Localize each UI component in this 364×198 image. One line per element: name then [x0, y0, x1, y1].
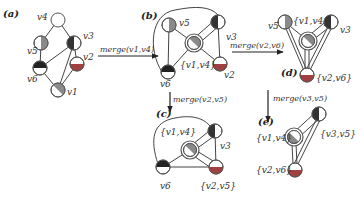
- label-c-v3: v3: [220, 142, 231, 151]
- node-c-v2v5: [209, 160, 223, 174]
- label-e-v3v5: {v3,v5}: [320, 130, 356, 139]
- panel-label-d: (d): [281, 68, 297, 78]
- node-a-v4: [51, 13, 65, 27]
- node-c-v3: [208, 124, 222, 138]
- graph-a: [40, 20, 77, 90]
- label-a-v3: v3: [83, 32, 94, 41]
- node-a-v2: [70, 57, 84, 71]
- op-label-merge-v2-v5: merge(v2,v5): [173, 96, 227, 104]
- label-a-v4: v4: [37, 13, 48, 22]
- node-e-v3v5: [312, 107, 326, 121]
- label-e-v1v4: {v1,v4}: [256, 134, 292, 143]
- label-a-v1: v1: [67, 88, 78, 97]
- node-b-v1v4: [185, 34, 203, 52]
- label-b-v3: v3: [226, 33, 237, 42]
- node-c-v6: [156, 160, 170, 174]
- label-a-v6: v6: [27, 75, 38, 84]
- node-b-v6: [161, 65, 175, 79]
- op-label-merge-v2-v6: merge(v2,v6): [230, 42, 284, 50]
- panel-label-a: (a): [3, 9, 19, 19]
- op-label-merge-v1-v4: merge(v1,v4): [100, 46, 154, 54]
- op-label-merge-v3-v5: merge(v3,v5): [273, 95, 327, 103]
- node-d-v1v4: [299, 32, 317, 50]
- label-d-v1v4: {v1,v4}: [293, 17, 329, 26]
- label-d-v5: v5: [268, 22, 279, 31]
- node-a-v1: [51, 83, 65, 97]
- node-c-v1v4: [181, 141, 199, 159]
- label-b-v2: v2: [224, 71, 235, 80]
- node-d-v5: [278, 15, 292, 29]
- label-a-v5: v5: [27, 47, 38, 56]
- panel-label-e: (e): [258, 117, 274, 127]
- label-c-v6: v6: [160, 182, 171, 191]
- node-b-v3: [211, 15, 225, 29]
- panel-label-b: (b): [141, 11, 157, 21]
- label-d-v3: v3: [340, 26, 351, 35]
- node-a-v3: [67, 36, 81, 50]
- label-c-v2v5: {v2,v5}: [200, 182, 236, 191]
- label-b-v1v4: {v1,v4}: [180, 61, 216, 70]
- label-a-v2: v2: [83, 53, 94, 62]
- node-b-v5: [162, 18, 176, 32]
- label-c-v1v4: {v1,v4}: [160, 128, 196, 137]
- label-e-v2v6: {v2,v6}: [256, 166, 292, 175]
- node-d-v2v6: [300, 68, 314, 82]
- node-a-v6: [33, 61, 47, 75]
- label-b-v5: v5: [179, 19, 190, 28]
- label-d-v2v6: {v2,v6}: [316, 74, 352, 83]
- label-b-v6: v6: [160, 80, 171, 89]
- panel-label-c: (c): [156, 109, 172, 119]
